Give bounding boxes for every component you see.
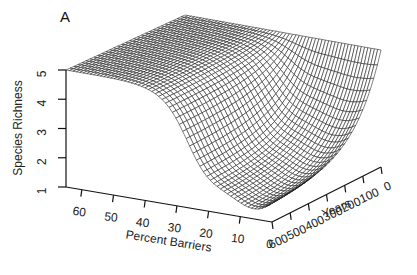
z-tick-label: 5 bbox=[35, 70, 49, 77]
z-tick-label: 3 bbox=[35, 129, 49, 136]
z-tick-label: 4 bbox=[35, 100, 49, 107]
z-tick-label: 2 bbox=[35, 158, 49, 165]
surface-plot: 12345Species Richness6050403020100Percen… bbox=[0, 0, 417, 275]
x-tick-label: 10 bbox=[230, 231, 245, 247]
x-tick-label: 60 bbox=[72, 204, 87, 220]
y-tick-label: 0 bbox=[381, 178, 393, 194]
x-tick-label: 50 bbox=[104, 209, 119, 225]
z-tick-label: 1 bbox=[35, 187, 49, 194]
y-tick-label: 100 bbox=[357, 185, 381, 206]
surface-mesh bbox=[66, 15, 381, 209]
z-axis-title: Species Richness bbox=[11, 80, 25, 175]
x-tick-label: 40 bbox=[135, 215, 150, 231]
